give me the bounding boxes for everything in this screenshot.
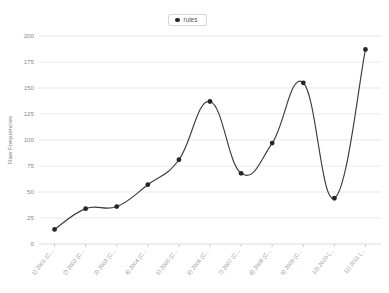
y-tick-label-50: 50 xyxy=(27,188,34,195)
data-point-2[interactable] xyxy=(83,206,88,211)
data-point-6[interactable] xyxy=(208,99,213,104)
data-point-1[interactable] xyxy=(52,227,57,232)
y-tick-label-25: 25 xyxy=(27,214,34,221)
data-point-5[interactable] xyxy=(177,157,182,162)
x-tick-label-1: 1) 2001 (C... xyxy=(30,248,54,277)
x-tick-label-9: 9) 2009 (C... xyxy=(279,248,303,277)
x-tick-label-11: 11) 2011 (... xyxy=(342,248,365,275)
series-line-rules xyxy=(55,50,366,230)
x-axis-tick-labels: 1) 2001 (C...2) 2002 (C...3) 2003 (C...4… xyxy=(30,248,365,277)
x-tick-label-10: 10) 2010 (... xyxy=(311,248,335,276)
y-tick-label-0: 0 xyxy=(31,240,35,247)
x-tick-label-6: 6) 2006 (C... xyxy=(186,248,210,277)
y-axis-title: Raw Frequencies xyxy=(6,116,13,164)
y-tick-label-100: 100 xyxy=(24,136,35,143)
data-point-3[interactable] xyxy=(114,204,119,209)
y-tick-label-200: 200 xyxy=(24,32,35,39)
series-markers-rules xyxy=(52,47,368,232)
legend-marker-filled-circle-icon xyxy=(175,18,180,23)
x-tick-label-8: 8) 2008 (C... xyxy=(248,248,272,277)
data-point-10[interactable] xyxy=(332,196,337,201)
x-tick-label-5: 5) 2005 (C... xyxy=(155,248,179,277)
data-point-9[interactable] xyxy=(301,80,306,85)
line-chart: rules 0255075100125150175200 1) 2001 (C.… xyxy=(0,0,389,293)
y-tick-label-150: 150 xyxy=(24,84,35,91)
chart-legend[interactable]: rules xyxy=(168,14,207,26)
data-point-7[interactable] xyxy=(239,171,244,176)
x-tick-label-7: 7) 2007 (C... xyxy=(217,248,241,277)
x-tick-label-2: 2) 2002 (C... xyxy=(62,248,86,277)
y-tick-label-175: 175 xyxy=(24,58,35,65)
chart-plot-area: 0255075100125150175200 1) 2001 (C...2) 2… xyxy=(0,0,389,293)
y-tick-label-125: 125 xyxy=(24,110,35,117)
y-axis-tick-labels: 0255075100125150175200 xyxy=(24,32,35,247)
gridlines xyxy=(39,36,381,244)
data-point-4[interactable] xyxy=(145,182,150,187)
data-point-11[interactable] xyxy=(363,47,368,52)
x-tick-label-3: 3) 2003 (C... xyxy=(93,248,117,277)
y-tick-label-75: 75 xyxy=(27,162,34,169)
x-tick-label-4: 4) 2004 (C... xyxy=(124,248,148,277)
data-point-8[interactable] xyxy=(270,141,275,146)
legend-label-rules: rules xyxy=(184,17,198,23)
